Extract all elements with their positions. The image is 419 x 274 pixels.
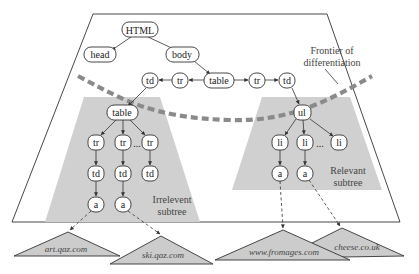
site-label-cheese: cheese.co.uk (334, 242, 380, 252)
node-td-1: td (88, 166, 104, 181)
svg-text:head: head (91, 49, 110, 60)
svg-text:td: td (283, 75, 291, 86)
svg-text:tr: tr (254, 75, 261, 86)
node-tr-3: tr (142, 135, 158, 150)
node-li-2: li (297, 135, 313, 150)
node-tr-left: tr (172, 73, 188, 88)
node-tr-right: tr (249, 73, 265, 88)
svg-text:ul: ul (298, 107, 306, 118)
svg-text:a: a (303, 168, 308, 179)
node-head: head (84, 47, 116, 62)
node-td-left: td (142, 73, 158, 88)
node-ul: ul (294, 105, 311, 120)
svg-text:a: a (121, 199, 126, 210)
node-a-1: a (88, 197, 104, 212)
relevant-label-line2: subtree (334, 177, 363, 188)
svg-text:li: li (302, 137, 308, 148)
svg-text:HTML: HTML (126, 25, 154, 36)
node-tr-2: tr (115, 135, 131, 150)
frontier-label-line2: differentiation (303, 57, 360, 68)
dom-tree-diagram: art.qaz.com ski.qaz.com www.fromages.com… (0, 0, 419, 274)
node-tr-1: tr (88, 135, 104, 150)
svg-text:tr: tr (177, 75, 184, 86)
node-li-3: li (331, 135, 347, 150)
svg-text:td: td (92, 168, 100, 179)
ellipsis-left: ... (133, 138, 141, 149)
node-td-2: td (115, 166, 131, 181)
node-body: body (166, 47, 199, 62)
svg-text:td: td (119, 168, 127, 179)
svg-text:a: a (278, 168, 283, 179)
site-label-ski: ski.qaz.com (142, 250, 184, 260)
node-table-inner: table (107, 105, 138, 120)
svg-text:a: a (94, 199, 99, 210)
node-a-3: a (272, 166, 288, 181)
relevant-label-line1: Relevant (330, 165, 366, 176)
node-td-right: td (279, 73, 295, 88)
svg-text:body: body (172, 49, 192, 60)
frontier-label-line1: Frontier of (310, 45, 354, 56)
irrelevant-label-line1: Irrelevent (153, 194, 192, 205)
svg-text:td: td (146, 168, 154, 179)
irrelevant-label-line2: subtree (158, 206, 187, 217)
svg-text:tr: tr (93, 137, 100, 148)
node-a-4: a (297, 166, 313, 181)
site-label-fromages: www.fromages.com (249, 247, 320, 257)
svg-text:table: table (112, 107, 132, 118)
node-td-3: td (142, 166, 158, 181)
node-li-1: li (272, 135, 288, 150)
svg-text:td: td (146, 75, 154, 86)
svg-text:li: li (277, 137, 283, 148)
site-label-art: art.qaz.com (45, 244, 88, 254)
node-html: HTML (122, 22, 158, 37)
node-a-2: a (115, 197, 131, 212)
svg-text:li: li (336, 137, 342, 148)
svg-text:tr: tr (147, 137, 154, 148)
ellipsis-right: ... (316, 138, 324, 149)
svg-text:table: table (209, 75, 229, 86)
svg-text:tr: tr (120, 137, 127, 148)
node-table-root: table (204, 73, 234, 88)
